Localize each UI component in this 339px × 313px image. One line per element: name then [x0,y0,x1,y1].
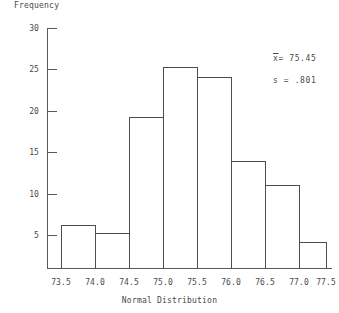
y-tick-label-30: 30 [13,24,39,33]
histogram-bar [129,117,164,269]
y-tick-label-25: 25 [13,65,39,74]
histogram-bar [61,225,96,269]
y-tick-label-5: 5 [13,231,39,240]
x-tick-label-74-0: 74.0 [78,278,112,287]
y-tick-30 [48,28,57,29]
y-tick-5 [48,235,57,236]
x-tick-label-76-0: 76.0 [214,278,248,287]
x-axis-title: Normal Distribution [0,296,339,305]
histogram-chart: Frequency 30 25 20 15 10 5 73.5 74.0 74.… [0,0,339,313]
x-tick-label-74-5: 74.5 [112,278,146,287]
y-tick-label-20: 20 [13,107,39,116]
histogram-bar [197,77,232,269]
mean-annotation: x= 75.45 [273,54,316,63]
histogram-bar [163,67,198,269]
mean-value: = 75.45 [278,54,316,63]
y-tick-10 [48,194,57,195]
x-tick-label-75-5: 75.5 [180,278,214,287]
y-tick-15 [48,152,57,153]
y-tick-label-10: 10 [13,190,39,199]
y-tick-20 [48,111,57,112]
x-tick-label-76-5: 76.5 [248,278,282,287]
y-tick-label-15: 15 [13,148,39,157]
x-tick-label-73-5: 73.5 [44,278,78,287]
histogram-bar [95,233,130,269]
sd-annotation: s = .801 [273,76,316,85]
y-axis-line [47,28,48,269]
histogram-bar [231,161,266,269]
y-axis-title: Frequency [14,1,59,10]
x-tick-label-75-0: 75.0 [146,278,180,287]
x-tick-label-77-5: 77.5 [309,278,339,287]
y-tick-25 [48,69,57,70]
histogram-bar [265,185,300,269]
histogram-bar [299,242,327,269]
